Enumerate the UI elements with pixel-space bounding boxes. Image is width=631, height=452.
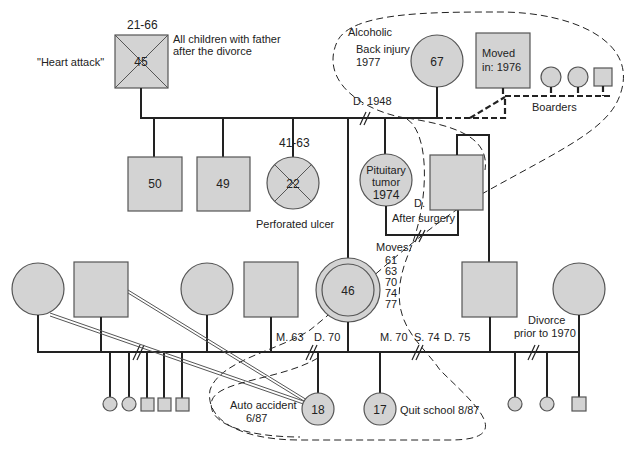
grandchild-right-girl-2 bbox=[540, 397, 554, 411]
svg-text:Moved: Moved bbox=[482, 47, 515, 59]
daughter-22-deceased: 22 bbox=[267, 157, 319, 209]
grandchild-boy-3 bbox=[176, 398, 189, 411]
svg-text:1974: 1974 bbox=[373, 188, 400, 202]
son-49: 49 bbox=[197, 157, 250, 211]
father-note-2: after the divorce bbox=[173, 45, 252, 57]
svg-text:50: 50 bbox=[148, 177, 162, 191]
father-dates: 21-66 bbox=[127, 18, 158, 32]
died-label: D. bbox=[414, 197, 425, 209]
mother-note-year: 1977 bbox=[356, 56, 380, 68]
auto-accident-date: 6/87 bbox=[246, 412, 267, 424]
spouse-woman-middle bbox=[181, 263, 233, 315]
spouse-woman-right bbox=[553, 263, 605, 315]
index-person-46: 46 bbox=[316, 258, 380, 322]
accident-boundary bbox=[211, 358, 318, 437]
father-note-1: All children with father bbox=[173, 33, 281, 45]
svg-text:Pituitary: Pituitary bbox=[366, 164, 406, 176]
genogram-diagram: 45 21-66 "Heart attack" All children wit… bbox=[0, 0, 631, 452]
moves-label: Moves: bbox=[376, 241, 411, 253]
quit-school-label: Quit school 8/87 bbox=[400, 404, 480, 416]
grandchild-right-boy bbox=[572, 397, 586, 411]
svg-text:46: 46 bbox=[341, 284, 355, 298]
husband-m63 bbox=[244, 262, 298, 317]
mother-note-back-injury: Back injury bbox=[356, 43, 410, 55]
svg-text:tumor: tumor bbox=[372, 176, 400, 188]
after-surgery-label: After surgery bbox=[392, 212, 455, 224]
mother-note-alcoholic: Alcoholic bbox=[348, 26, 393, 38]
spouse-man-left bbox=[74, 262, 128, 317]
grandchild-right-girl-1 bbox=[508, 397, 522, 411]
partner-moved-in: Moved in: 1976 bbox=[476, 33, 530, 88]
mother-67: 67 bbox=[411, 35, 463, 87]
m70-label: M. 70 bbox=[380, 331, 408, 343]
move-77: 77 bbox=[385, 298, 397, 310]
svg-text:17: 17 bbox=[373, 403, 387, 417]
s74-label: S. 74 bbox=[414, 331, 440, 343]
boarders-label: Boarders bbox=[532, 101, 577, 113]
spouse-woman-left bbox=[12, 263, 64, 315]
father-cause: "Heart attack" bbox=[37, 56, 104, 68]
auto-accident-label: Auto accident bbox=[230, 399, 297, 411]
divorce-1948-label: D. 1948 bbox=[353, 95, 392, 107]
m63-label: M. 63 bbox=[276, 331, 304, 343]
svg-text:18: 18 bbox=[311, 403, 325, 417]
daughter-22-dates: 41-63 bbox=[279, 136, 310, 150]
grandchild-girl-1 bbox=[103, 397, 117, 411]
father-45: 45 bbox=[115, 35, 168, 88]
svg-text:in: 1976: in: 1976 bbox=[482, 61, 521, 73]
d70-label: D. 70 bbox=[314, 331, 340, 343]
grandchild-boy-1 bbox=[141, 398, 154, 411]
grandchild-girl-2 bbox=[122, 397, 136, 411]
daughter-22-cause: Perforated ulcer bbox=[256, 218, 335, 230]
svg-text:67: 67 bbox=[430, 55, 444, 69]
spouse-died-after-surgery bbox=[430, 155, 483, 210]
daughter-pituitary-tumor: Pituitary tumor 1974 bbox=[360, 154, 412, 206]
svg-text:22: 22 bbox=[286, 177, 300, 191]
husband-m70 bbox=[462, 262, 517, 317]
boarders bbox=[541, 67, 612, 87]
divorce-prior-line1: Divorce bbox=[528, 314, 565, 326]
svg-text:49: 49 bbox=[216, 177, 230, 191]
divorce-prior-line2: prior to 1970 bbox=[514, 327, 576, 339]
d75-label: D. 75 bbox=[444, 331, 470, 343]
daughter-17: 17 bbox=[364, 393, 396, 425]
daughter-18: 18 bbox=[302, 393, 334, 425]
son-50: 50 bbox=[128, 157, 182, 211]
svg-text:45: 45 bbox=[134, 55, 148, 69]
grandchild-boy-2 bbox=[158, 398, 171, 411]
